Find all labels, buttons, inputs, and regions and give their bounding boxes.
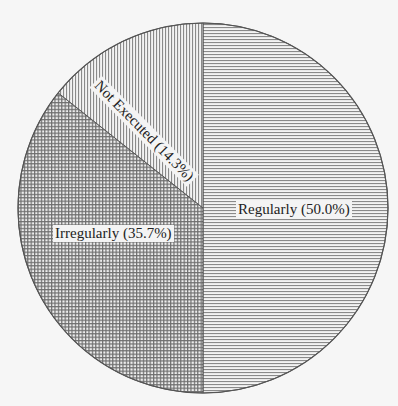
slice-label-irregularly: Irregularly (35.7%) xyxy=(53,225,174,242)
slice-label-regularly: Regularly (50.0%) xyxy=(236,201,352,218)
